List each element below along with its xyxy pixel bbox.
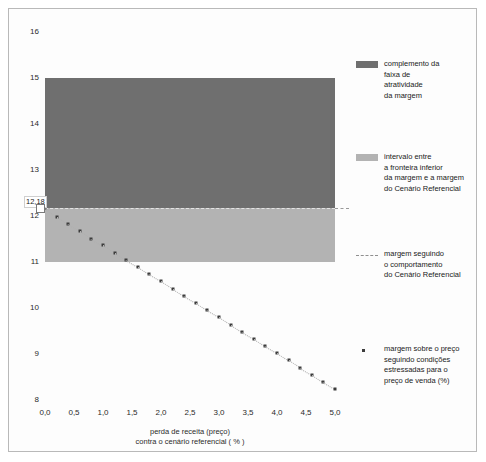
chart-legend: complemento dafaixa deatratividadeda mar… — [356, 9, 478, 453]
x-axis-tick-1-0: 1,0 — [97, 409, 108, 417]
legend-swatch-glyph — [362, 349, 365, 352]
y-axis-tick-15: 15 — [30, 74, 39, 82]
x-axis-title-line-1: perda de receita (preço) — [45, 427, 335, 437]
legend-swatch-dashed-line-icon — [356, 251, 378, 256]
y-axis-tick-16: 16 — [30, 28, 39, 36]
legend-item-label: margem seguindoo comportamentodo Cenário… — [384, 249, 461, 281]
legend-item-3[interactable]: margem seguindoo comportamentodo Cenário… — [356, 249, 478, 281]
legend-swatch-glyph — [356, 255, 378, 256]
legend-label-line: da margem e a margem — [384, 173, 464, 184]
legend-item-4[interactable]: margem sobre o preçoseguindo condiçõeses… — [356, 344, 478, 386]
legend-label-line: faixa de — [384, 70, 439, 81]
legend-label-line: atratividade — [384, 80, 439, 91]
y-axis-tick-11: 11 — [31, 258, 39, 266]
legend-item-1[interactable]: complemento dafaixa deatratividadeda mar… — [356, 59, 478, 101]
plot-area — [45, 32, 335, 400]
legend-label-line: preço de venda (%) — [384, 376, 459, 387]
y-axis-tick-12: 12 — [30, 212, 39, 220]
x-axis-tick-0-5: 0,5 — [68, 409, 79, 417]
legend-item-2[interactable]: intervalo entrea fronteira inferiorda ma… — [356, 152, 478, 194]
legend-label-line: estressadas para o — [384, 365, 459, 376]
x-axis-tick-1-5: 1,5 — [126, 409, 137, 417]
x-axis-title-line-2: contra o cenário referencial ( % ) — [45, 437, 335, 447]
x-axis-tick-4-0: 4,0 — [271, 409, 282, 417]
y-axis-tick-8: 8 — [35, 396, 39, 404]
x-axis: 0,00,51,01,52,02,53,03,54,04,55,0 — [45, 409, 335, 421]
x-axis-title: perda de receita (preço) contra o cenári… — [45, 427, 335, 447]
x-axis-tick-5-0: 5,0 — [329, 409, 340, 417]
legend-label-line: do Cenário Referencial — [384, 184, 464, 195]
legend-label-line: intervalo entre — [384, 152, 464, 163]
data-point — [334, 387, 337, 390]
x-axis-tick-0-0: 0,0 — [39, 409, 50, 417]
legend-label-line: o comportamento — [384, 260, 461, 271]
legend-swatch-color-block-icon — [356, 61, 378, 68]
y-axis-tick-14: 14 — [30, 120, 39, 128]
legend-label-line: do Cenário Referencial — [384, 270, 461, 281]
legend-swatch-glyph — [356, 61, 378, 68]
legend-swatch-dot-marker-icon — [356, 346, 378, 352]
legend-swatch-glyph — [356, 154, 378, 161]
chart-frame: 1615141312111098 12,18 0,00,51,01,52,02,… — [8, 8, 477, 452]
reference-line-cenario-referencial — [45, 208, 335, 209]
legend-label-line: margem sobre o preço — [384, 344, 459, 355]
legend-label-line: a fronteira inferior — [384, 163, 464, 174]
band-complemento-faixa-atratividade — [45, 78, 335, 208]
y-axis-tick-13: 13 — [30, 166, 39, 174]
y-axis-tick-10: 10 — [30, 304, 39, 312]
legend-label-line: complemento da — [384, 59, 439, 70]
x-axis-tick-4-5: 4,5 — [300, 409, 311, 417]
x-axis-tick-3-0: 3,0 — [213, 409, 224, 417]
legend-item-label: complemento dafaixa deatratividadeda mar… — [384, 59, 439, 101]
y-axis-tick-9: 9 — [35, 350, 39, 358]
legend-item-label: intervalo entrea fronteira inferiorda ma… — [384, 152, 464, 194]
legend-label-line: da margem — [384, 91, 439, 102]
legend-label-line: margem seguindo — [384, 249, 461, 260]
reference-line-legend-connector — [335, 208, 349, 209]
x-axis-tick-3-5: 3,5 — [242, 409, 253, 417]
band-intervalo-fronteira-inferior — [45, 208, 335, 262]
legend-swatch-color-block-icon — [356, 154, 378, 161]
legend-item-label: margem sobre o preçoseguindo condiçõeses… — [384, 344, 459, 386]
x-axis-tick-2-0: 2,0 — [155, 409, 166, 417]
y-axis: 1615141312111098 — [17, 32, 39, 400]
legend-label-line: seguindo condições — [384, 355, 459, 366]
x-axis-tick-2-5: 2,5 — [184, 409, 195, 417]
annotation-handle[interactable] — [36, 204, 45, 213]
